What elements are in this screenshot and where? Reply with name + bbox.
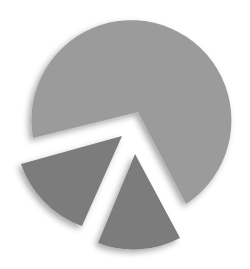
pie-chart bbox=[0, 0, 250, 269]
pie-slice-left bbox=[21, 136, 122, 226]
pie-chart-icon bbox=[0, 0, 250, 269]
